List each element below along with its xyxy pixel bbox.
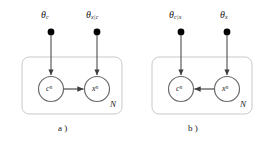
theta-c-given-x-label: θc|x [169,10,182,20]
plate-label-n: N [240,100,246,109]
theta-c-dot [48,29,55,36]
panel-b: θc|x θx cn xn N b ) [130,0,260,147]
theta-x-given-c-dot [94,29,101,36]
panel-a: θc θx|c cn xn N a ) [0,0,130,147]
theta-c-label: θc [41,10,49,20]
node-c-label: cn [176,85,182,93]
node-x-label: xn [92,85,98,93]
figure-plate-diagrams: θc θx|c cn xn N a ) [0,0,260,147]
theta-x-label: θx [220,10,228,20]
panel-a-caption: a ) [58,123,67,133]
theta-x-dot [224,29,231,36]
theta-x-given-c-label: θx|c [86,10,99,20]
theta-c-given-x-dot [178,29,185,36]
node-x-label: xn [222,85,228,93]
panel-b-caption: b ) [188,123,198,133]
node-c-label: cn [46,85,52,93]
plate-label-n: N [110,100,116,109]
